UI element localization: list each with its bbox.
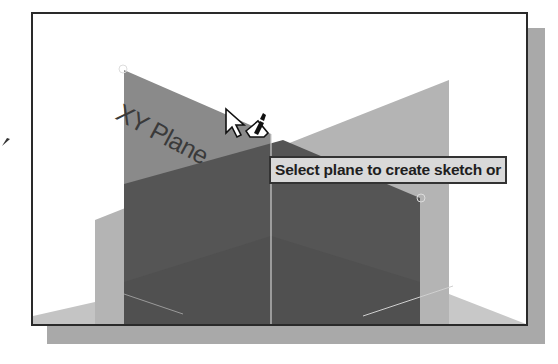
floor-plane-right[interactable] xyxy=(449,294,526,324)
corner-handle[interactable] xyxy=(119,65,127,73)
tooltip: Select plane to create sketch or xyxy=(269,156,507,184)
graphics-viewport[interactable]: XY Plane Select plane to create sketch o… xyxy=(31,12,528,326)
pointer-arrow-icon xyxy=(0,133,12,145)
select-pointer-with-sketch-icon xyxy=(224,107,276,147)
